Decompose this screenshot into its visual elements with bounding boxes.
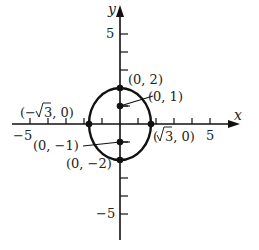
covertex-right-label: ( 3, 0) — [153, 127, 195, 144]
focus-top-label: (0, 1) — [148, 89, 183, 104]
covertex-right-point — [148, 121, 155, 128]
x-axis-label: x — [234, 107, 242, 123]
y-tick-label-neg5: −5 — [96, 206, 115, 221]
vertex-bottom-point — [117, 157, 124, 164]
focus-bottom-point — [117, 139, 124, 146]
covertex-left-point — [86, 121, 93, 128]
x-tick-label-neg5: −5 — [13, 128, 32, 143]
ellipse-diagram: y x 5 −5 −5 5 (0, 2) (0, 1) (0, −1) (0, … — [0, 0, 259, 250]
focus-bottom-leader — [83, 142, 120, 146]
y-axis-arrow-icon — [116, 5, 124, 17]
vertex-bottom-label: (0, −2) — [66, 156, 112, 171]
svg-text:3, 0): 3, 0) — [44, 105, 74, 120]
x-tick-label-5: 5 — [206, 128, 214, 143]
covertex-left-label: (− 3, 0) — [20, 103, 74, 120]
svg-text:3, 0): 3, 0) — [165, 129, 195, 144]
focus-bottom-label: (0, −1) — [33, 138, 79, 153]
svg-text:(−: (− — [20, 105, 36, 120]
focus-top-point — [117, 103, 124, 110]
vertex-top-point — [117, 85, 124, 92]
vertex-top-label: (0, 2) — [128, 72, 163, 87]
y-tick-label-5: 5 — [106, 26, 114, 41]
y-axis-label: y — [107, 1, 117, 17]
